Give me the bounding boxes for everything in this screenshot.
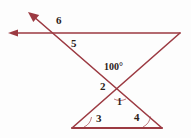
angle-label-3: 3 bbox=[96, 113, 102, 124]
angle-label-6: 6 bbox=[56, 15, 62, 26]
angle-label-2: 2 bbox=[100, 81, 106, 92]
angle-label-4: 4 bbox=[134, 112, 140, 123]
angle-label-1: 1 bbox=[117, 97, 122, 107]
right-diagonal-line bbox=[72, 33, 180, 128]
angle-label-5: 5 bbox=[71, 38, 77, 49]
geometry-figure: 6 5 100° 2 1 3 4 bbox=[0, 0, 191, 138]
angle-3-arc bbox=[84, 117, 92, 127]
horizontal-ray-arrowhead bbox=[8, 29, 18, 36]
angle-label-100: 100° bbox=[104, 62, 123, 72]
